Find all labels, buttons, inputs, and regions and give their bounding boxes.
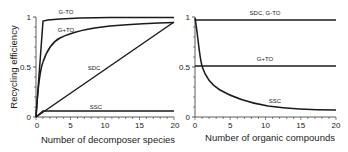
left-series-sdc — [36, 22, 174, 117]
right-ytick-0: 0 — [186, 113, 191, 122]
left-x-axis: 0 5 10 15 20 — [35, 117, 180, 130]
right-xtick-10: 10 — [261, 121, 270, 130]
right-y-axis: 1 0.5 0 — [179, 13, 195, 122]
label-right-g-plus-to: G+TO — [257, 56, 274, 62]
left-ytick-1: 1 — [27, 13, 32, 22]
right-series-ssc — [195, 18, 336, 110]
right-ytick-1: 1 — [186, 13, 191, 22]
label-ssc: SSC — [90, 104, 103, 110]
left-xtick-5: 5 — [68, 121, 73, 130]
left-xtick-20: 20 — [171, 121, 180, 130]
right-ytick-0.5: 0.5 — [179, 63, 191, 72]
left-x-axis-label: Number of decomposer species — [41, 134, 175, 145]
figure: 1 0.5 0 — [0, 0, 348, 152]
right-xtick-5: 5 — [228, 121, 233, 130]
right-xtick-20: 20 — [332, 121, 341, 130]
left-panel: 1 0.5 0 — [8, 9, 180, 145]
label-g-plus-to: G+TO — [58, 27, 75, 33]
left-ytick-0: 0 — [27, 113, 32, 122]
right-x-axis-label: Number of organic compounds — [205, 132, 335, 143]
left-ytick-0.5: 0.5 — [20, 63, 32, 72]
right-xtick-0: 0 — [193, 121, 198, 130]
left-xtick-0: 0 — [35, 121, 40, 130]
left-xtick-10: 10 — [101, 121, 110, 130]
left-series-ssc — [36, 111, 174, 117]
label-right-ssc: SSC — [269, 98, 282, 104]
right-x-axis: 0 5 10 15 20 — [193, 117, 341, 130]
label-sdc: SDC — [88, 65, 101, 71]
left-xtick-15: 15 — [135, 121, 144, 130]
right-panel: 1 0.5 0 — [179, 10, 341, 143]
y-axis-label: Recycling efficiency — [8, 25, 19, 109]
left-y-axis: 1 0.5 0 — [20, 13, 36, 122]
label-sdc-g-to: SDC, G-TO — [250, 10, 281, 16]
label-g-to: G-TO — [59, 9, 74, 15]
right-xtick-15: 15 — [296, 121, 305, 130]
